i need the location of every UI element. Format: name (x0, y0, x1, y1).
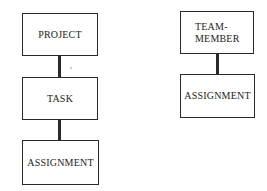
connector-project-task (58, 56, 61, 77)
entity-assignment-left-label: ASSIGNMENT (27, 157, 93, 169)
entity-assignment-left: ASSIGNMENT (22, 140, 99, 185)
entity-project: PROJECT (22, 13, 98, 56)
connector-task-assignment (58, 120, 61, 140)
entity-team-member: TEAM- MEMBER (180, 11, 254, 54)
entity-assignment-right: ASSIGNMENT (180, 74, 255, 118)
entity-project-label: PROJECT (38, 29, 82, 41)
connector-team-member-assignment (216, 54, 219, 74)
entity-assignment-right-label: ASSIGNMENT (184, 90, 250, 102)
entity-task: TASK (22, 77, 98, 120)
stray-mark (70, 67, 72, 69)
entity-team-member-label: TEAM- MEMBER (195, 21, 240, 45)
entity-task-label: TASK (47, 93, 73, 105)
